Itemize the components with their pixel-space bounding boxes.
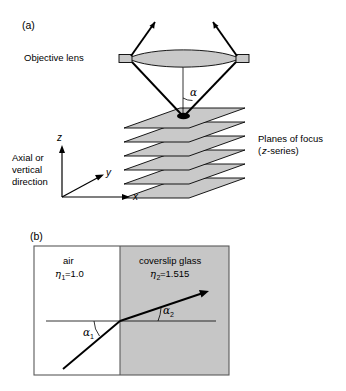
glass-eta-value: =1.515 — [160, 268, 189, 279]
glass-eta-symbol: η — [150, 268, 156, 279]
axial-direction-label: Axial or vertical direction — [12, 152, 48, 187]
z-series-label: ( z -series) — [258, 145, 299, 156]
air-region — [34, 246, 120, 375]
planes-of-focus-label: Planes of focus — [258, 133, 323, 144]
lens-mount-left — [119, 55, 132, 63]
objective-lens-label: Objective lens — [24, 52, 84, 63]
air-eta-value: =1.0 — [65, 268, 84, 279]
figure-root: (a) — [0, 0, 346, 391]
panel-a-label: (a) — [22, 19, 35, 31]
outgoing-ray-right — [213, 22, 237, 56]
arrowhead-z-axis — [59, 145, 65, 153]
outgoing-ray-left — [131, 22, 155, 56]
y-axis-line — [62, 177, 99, 197]
focal-plane-stack — [124, 108, 245, 198]
lens-mount-right — [236, 55, 249, 63]
air-label: air — [63, 255, 74, 266]
converging-ray-left — [132, 62, 181, 114]
alpha2-subscript: 2 — [170, 311, 174, 318]
z-axis-label: z — [56, 132, 62, 143]
axial-direction-line2: vertical — [12, 164, 42, 175]
coverslip-glass-label: coverslip glass — [139, 255, 202, 266]
alpha-angle-label: α — [190, 86, 197, 98]
objective-lens-body — [128, 50, 240, 67]
coordinate-axes: z x y — [56, 132, 139, 202]
air-eta-symbol: η — [55, 268, 61, 279]
alpha-angle-arc — [183, 98, 193, 101]
panel-a-group: (a) — [12, 19, 323, 202]
panel-b-group: (b) air η 1 =1.0 coverslip glass η 2 =1.… — [30, 230, 229, 375]
y-axis-label: y — [105, 167, 112, 178]
alpha1-subscript: 1 — [90, 333, 94, 340]
arrowhead-x-axis — [122, 194, 130, 200]
arrowhead-y-axis — [95, 175, 104, 181]
z-series-rest: -series) — [267, 145, 299, 156]
panel-b-label: (b) — [30, 230, 43, 242]
optics-figure-svg: (a) — [0, 0, 346, 391]
x-axis-label: x — [132, 191, 139, 202]
axial-direction-line3: direction — [12, 176, 48, 187]
focal-point-marker — [177, 113, 190, 119]
axial-direction-line1: Axial or — [12, 152, 44, 163]
